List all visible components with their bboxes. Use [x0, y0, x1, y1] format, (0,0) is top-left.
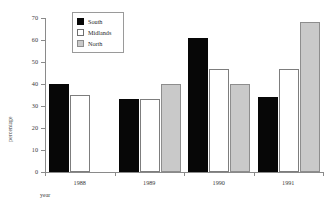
legend-swatch-midlands-icon [77, 29, 84, 36]
y-axis-tick-label-text: 10 [20, 147, 38, 153]
legend-label-south: South [88, 18, 102, 25]
x-axis-tick [184, 172, 185, 176]
x-axis-tick-label: 1991 [254, 179, 324, 186]
y-axis-title: percentage [7, 106, 13, 152]
x-axis-tick [323, 172, 324, 176]
y-axis-tick-label-text: 0 [20, 169, 38, 175]
legend-item-south: South [77, 16, 118, 27]
x-axis-title: year [40, 192, 50, 199]
bar-midlands-1989 [140, 99, 160, 172]
bar-north-1991 [300, 22, 320, 172]
y-axis-tick-label-text: 30 [20, 103, 38, 109]
bar-chart: 010203040506070 percentage 1988198919901… [0, 0, 332, 208]
x-axis-tick-label: 1990 [184, 179, 254, 186]
y-axis-tick-label-text: 70 [20, 15, 38, 21]
chart-legend: South Midlands North [72, 12, 124, 53]
legend-label-midlands: Midlands [88, 29, 111, 36]
y-axis-tick-label-text: 60 [20, 37, 38, 43]
bar-north-1990 [230, 84, 250, 172]
bar-south-1990 [188, 38, 208, 172]
legend-label-north: North [88, 40, 102, 47]
legend-swatch-north-icon [77, 40, 84, 47]
bar-midlands-1988 [70, 95, 90, 172]
legend-swatch-south-icon [77, 18, 84, 25]
legend-item-north: North [77, 38, 118, 49]
bar-south-1991 [258, 97, 278, 172]
x-axis-tick [115, 172, 116, 176]
bar-midlands-1991 [279, 69, 299, 172]
bar-south-1988 [49, 84, 69, 172]
legend-item-midlands: Midlands [77, 27, 118, 38]
bar-north-1989 [161, 84, 181, 172]
x-axis-tick [254, 172, 255, 176]
x-axis-tick-label: 1989 [115, 179, 185, 186]
y-axis-tick-label-text: 20 [20, 125, 38, 131]
bar-south-1989 [119, 99, 139, 172]
x-axis-tick-label: 1988 [45, 179, 115, 186]
y-axis-tick-label-text: 50 [20, 59, 38, 65]
y-axis-tick-label-text: 40 [20, 81, 38, 87]
bar-midlands-1990 [209, 69, 229, 172]
x-axis-tick [45, 172, 46, 176]
